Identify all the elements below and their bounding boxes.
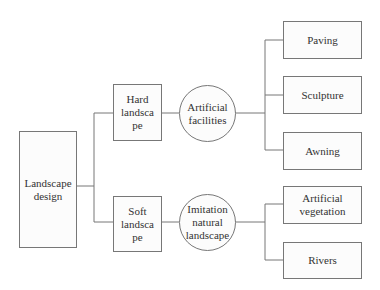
- node-label: Artificial facilities: [187, 101, 227, 127]
- node-label: Hard landsca pe: [121, 93, 154, 132]
- leaf-awning: Awning: [283, 132, 362, 170]
- root-node-landscape-design: Landscape design: [19, 131, 77, 248]
- node-label: Paving: [307, 34, 338, 47]
- node-artificial-facilities: Artificial facilities: [179, 85, 236, 142]
- node-label: Sculpture: [301, 89, 343, 102]
- node-label: Imitation natural landscape: [186, 203, 229, 242]
- node-label: Rivers: [308, 254, 337, 267]
- node-label: Landscape design: [24, 177, 71, 203]
- leaf-sculpture: Sculpture: [283, 76, 362, 114]
- leaf-artificial-vegetation: Artificial vegetation: [283, 186, 362, 224]
- node-hard-landscape: Hard landsca pe: [113, 84, 162, 141]
- node-label: Soft landsca pe: [121, 205, 154, 244]
- node-label: Artificial vegetation: [300, 192, 346, 218]
- node-soft-landscape: Soft landsca pe: [113, 196, 162, 252]
- leaf-paving: Paving: [283, 21, 362, 59]
- node-imitation-natural-landscape: Imitation natural landscape: [179, 194, 236, 251]
- node-label: Awning: [305, 145, 339, 158]
- leaf-rivers: Rivers: [283, 242, 362, 279]
